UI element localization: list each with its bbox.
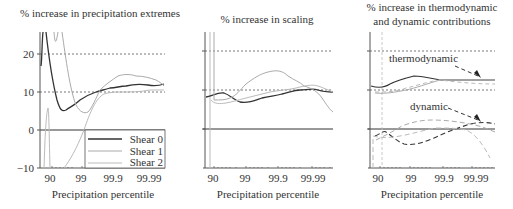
x-axis-label: Precipitation percentile [52,188,154,200]
legend-label: Shear 0 [130,133,164,145]
panel-title: % increase in precipitation extremes [20,7,180,19]
annotation-thermodynamic: thermodynamic [389,52,458,64]
series-shear-1 [214,32,333,112]
arrow-dynamic [448,108,478,120]
x-tick: 99.99 [301,172,326,184]
x-axis-label: Precipitation percentile [381,188,483,200]
x-tick: 99 [240,172,252,184]
x-tick: 90 [373,172,385,184]
x-tick: 99.9 [103,172,123,184]
y-tick: −10 [17,162,35,174]
y-tick: 20 [23,48,35,60]
series-shear-1-thermodynamic [375,80,495,93]
series-shear-2-dynamic [373,128,490,168]
panel-title-line1: % increase in thermodynamic [366,1,497,13]
panel-title: % increase in scaling [220,13,314,25]
series-shear-0 [41,32,164,111]
arrowhead-icon [474,114,481,122]
legend-label: Shear 2 [130,156,163,168]
x-tick: 99.9 [268,172,288,184]
x-tick: 90 [45,172,57,184]
panel-contributions: % increase in thermodynamic and dynamic … [366,1,497,200]
figure: % increase in precipitation extremes 20 … [0,0,513,209]
panel-title-line2: and dynamic contributions [373,15,490,27]
x-tick: 90 [208,172,220,184]
panel-extremes: % increase in precipitation extremes 20 … [17,7,180,200]
series-shear-0 [206,89,333,102]
panel-scaling: % increase in scaling 90 99 99.9 99.99 P… [202,13,333,200]
x-tick: 99.99 [137,172,162,184]
x-tick: 99 [76,172,88,184]
arrowhead-icon [474,70,481,78]
annotation-dynamic: dynamic [410,100,448,112]
series-shear-1 [54,32,164,113]
series-shear-2 [211,85,333,103]
x-tick: 99 [406,172,418,184]
x-tick: 99.99 [464,172,489,184]
y-tick: 10 [23,86,35,98]
y-tick: 0 [29,124,35,136]
arrow-thermodynamic [455,66,478,76]
x-tick: 99.9 [434,172,454,184]
legend: Shear 0 Shear 1 Shear 2 [85,130,165,168]
x-axis-label: Precipitation percentile [217,188,319,200]
